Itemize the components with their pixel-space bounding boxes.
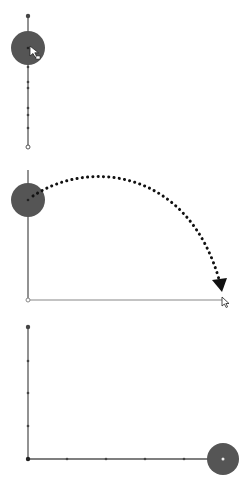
tick-mark [66, 458, 69, 461]
handle-center-dot [27, 199, 30, 202]
diagram-canvas [0, 0, 250, 483]
origin-marker [26, 298, 30, 302]
pointer-cursor-icon [222, 297, 229, 308]
tick-mark [27, 114, 30, 117]
handle-center-dot [222, 458, 225, 461]
panel-1 [11, 14, 45, 149]
drag-path-arc [33, 177, 220, 283]
tick-mark [26, 325, 30, 329]
arrowhead-icon [212, 278, 227, 292]
axis-end-marker [26, 145, 30, 149]
tick-mark [27, 425, 30, 428]
panel-2 [11, 170, 229, 308]
origin-marker [26, 457, 30, 461]
tick-mark [105, 458, 108, 461]
tick-mark [27, 392, 30, 395]
tick-mark [144, 458, 147, 461]
axis-ticks [26, 325, 186, 461]
tick-mark [27, 66, 30, 69]
tick-mark [27, 360, 30, 363]
tick-mark [27, 87, 30, 90]
tick-mark [27, 127, 30, 130]
tick-mark [27, 107, 30, 110]
tick-mark [27, 81, 30, 84]
tick-mark [183, 458, 186, 461]
handle-center-dot [27, 47, 30, 50]
tick-mark [26, 14, 30, 18]
panel-3 [26, 325, 239, 475]
